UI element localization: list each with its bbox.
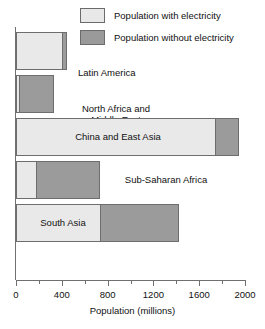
bar-latin-america [16,32,67,70]
legend-item-with-electricity: Population with electricity [80,6,265,25]
bar-label-line1: North Africa and [82,103,150,114]
x-tick-label-800: 800 [100,289,116,300]
bar-label-china-east-asia: China and East Asia [38,131,198,142]
x-tick-1000 [131,280,132,284]
x-tick-label-0: 0 [13,289,18,300]
bar-segment-with-electricity [16,161,36,199]
x-tick-400 [62,280,63,286]
x-tick-0 [16,280,17,286]
x-tick-label-2000: 2000 [234,289,255,300]
x-tick-600 [85,280,86,284]
bar-sub-saharan-africa [16,161,100,199]
x-tick-2000 [245,280,246,286]
x-tick-1600 [199,280,200,286]
x-tick-label-1600: 1600 [189,289,210,300]
bar-segment-without-electricity [36,161,100,199]
x-tick-1200 [153,280,154,286]
bar-segment-with-electricity [16,32,62,70]
bar-label-south-asia: South Asia [28,217,98,228]
x-tick-200 [39,280,40,284]
bar-north-africa-middle-east [16,75,54,113]
bar-label-sub-saharan-africa: Sub-Saharan Africa [106,174,226,185]
x-tick-label-400: 400 [54,289,70,300]
bar-label-latin-america: Latin America [78,67,136,78]
x-tick-label-1200: 1200 [143,289,164,300]
x-tick-800 [108,280,109,286]
population-electricity-bar-chart: Population with electricity Population w… [0,0,265,329]
bar-segment-without-electricity [215,118,239,156]
legend-label-with-electricity: Population with electricity [114,10,221,21]
bar-segment-without-electricity [100,204,179,242]
x-tick-1800 [222,280,223,284]
x-axis-title: Population (millions) [0,305,265,316]
bar-segment-without-electricity [62,32,68,70]
plot-area: Latin America North Africa and Middle Ea… [16,27,245,280]
x-tick-1400 [176,280,177,284]
light-swatch-icon [80,8,105,23]
bar-segment-without-electricity [19,75,53,113]
